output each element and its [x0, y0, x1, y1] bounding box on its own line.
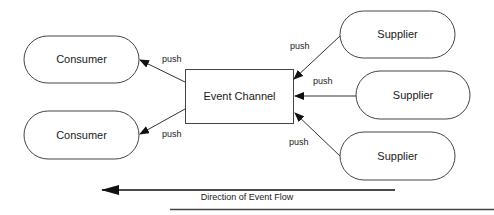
event-channel-node: Event Channel — [186, 70, 294, 124]
supplier-label-1: Supplier — [377, 28, 418, 40]
supplier-label-3: Supplier — [377, 150, 418, 162]
push-arrow-supplier-3 — [295, 113, 340, 156]
flow-direction-label: Direction of Event Flow — [201, 192, 294, 202]
push-label-supplier-3: push — [289, 137, 309, 147]
push-label-supplier-1: push — [290, 41, 310, 51]
supplier-label-2: Supplier — [393, 89, 434, 101]
consumer-node-2: Consumer — [24, 111, 139, 159]
push-label-consumer-2: push — [162, 129, 182, 139]
supplier-node-2: Supplier — [356, 71, 470, 119]
event-channel-diagram: Consumer Consumer Event Channel Supplier… — [0, 0, 494, 215]
consumer-node-1: Consumer — [24, 36, 139, 83]
event-channel-label: Event Channel — [203, 90, 275, 102]
consumer-label-2: Consumer — [56, 129, 107, 141]
consumer-label-1: Consumer — [56, 53, 107, 65]
supplier-node-1: Supplier — [340, 11, 455, 58]
push-label-consumer-1: push — [162, 54, 182, 64]
supplier-node-3: Supplier — [340, 132, 455, 180]
push-label-supplier-2: push — [313, 76, 333, 86]
